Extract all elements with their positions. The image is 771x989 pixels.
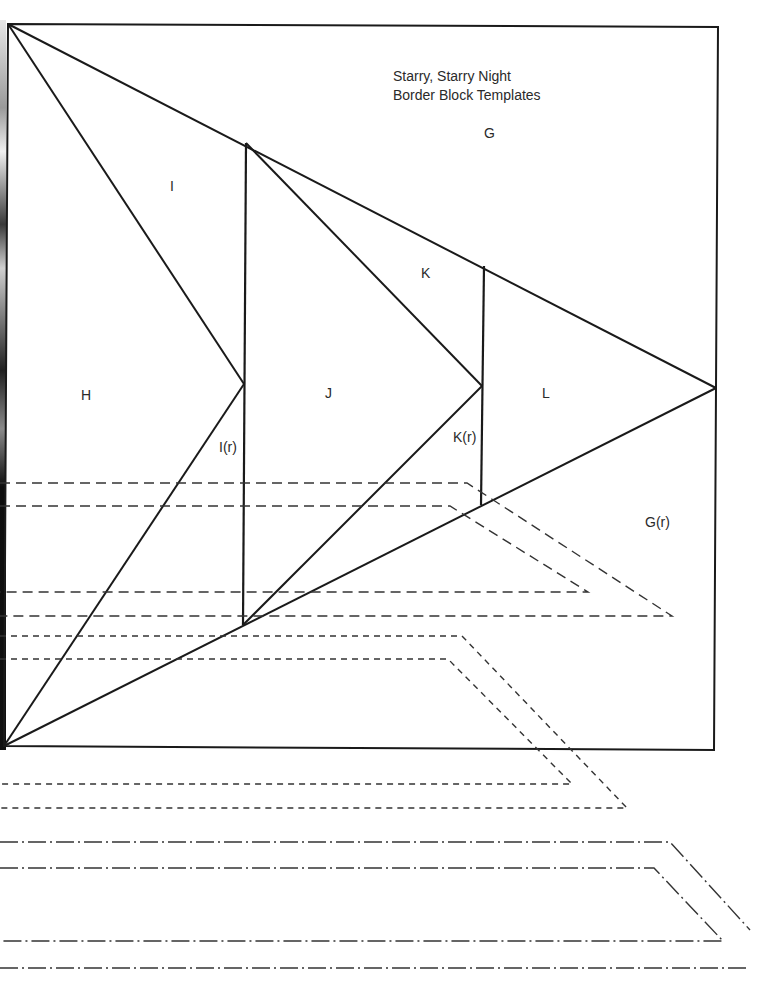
dotted-template-inner: [0, 659, 572, 784]
label-l: L: [542, 386, 550, 400]
label-i-r: I(r): [219, 440, 237, 454]
dotted-template-outer: [0, 636, 627, 808]
template-diagram: [0, 0, 771, 989]
diagonal-bottom-to-apex: [4, 388, 716, 746]
title-line-1: Starry, Starry Night: [393, 67, 541, 86]
label-k: K: [421, 266, 430, 280]
label-h: H: [81, 388, 91, 402]
line-h-i-bottom: [4, 384, 244, 746]
label-g-r: G(r): [645, 515, 670, 529]
dashed-template-inner: [0, 506, 588, 592]
line-k-l-vertical: [481, 266, 484, 505]
diagram-title: Starry, Starry Night Border Block Templa…: [393, 67, 541, 105]
label-g: G: [484, 126, 495, 140]
line-j-k-top: [246, 143, 482, 386]
diagonal-top-to-apex: [8, 24, 716, 388]
label-k-r: K(r): [453, 430, 476, 444]
dashdot-template-inner: [0, 868, 723, 941]
label-i: I: [170, 179, 174, 193]
title-line-2: Border Block Templates: [393, 86, 541, 105]
line-j-vertical: [243, 143, 246, 625]
dashed-template-outer: [0, 483, 672, 616]
block-outline: [4, 24, 718, 750]
line-h-i-top: [8, 24, 244, 384]
label-j: J: [325, 386, 332, 400]
dashdot-template-outer: [0, 842, 750, 930]
